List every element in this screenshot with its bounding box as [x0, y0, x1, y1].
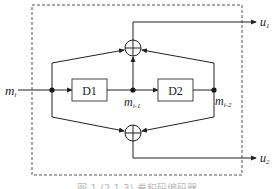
d2-label: D2 [168, 84, 183, 98]
output-u2-line [133, 141, 256, 158]
output-u1-label: u1 [260, 15, 270, 30]
encoder-diagram: mi D1 D2 mi-1 mi-2 u1 u2 图 1 (2,1,3) 卷积码… [0, 0, 275, 189]
input-label: mi [5, 83, 16, 99]
tap2-label: mi-2 [215, 94, 232, 109]
output-u1-line [133, 22, 256, 40]
output-u2-label: u2 [260, 151, 270, 166]
d1-label: D1 [82, 84, 97, 98]
figure-caption: 图 1 (2,1,3) 卷积码编码器 [77, 182, 196, 189]
tap1-label: mi-1 [124, 95, 140, 110]
